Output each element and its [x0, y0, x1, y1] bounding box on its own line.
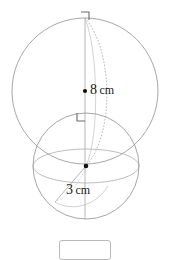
- large-radius-value: 8: [90, 82, 97, 97]
- small-sphere-radius-label: 3 cm: [66, 183, 90, 197]
- large-radius-unit: cm: [97, 83, 114, 97]
- small-sphere-center-dot: [84, 164, 89, 169]
- right-angle-mark-middle-icon: [77, 113, 85, 121]
- large-sphere-center-dot: [83, 89, 87, 93]
- large-sphere-radius-label: 8 cm: [90, 83, 114, 97]
- answer-input[interactable]: [59, 240, 111, 260]
- small-radius-value: 3: [66, 182, 73, 197]
- small-radius-unit: cm: [73, 183, 90, 197]
